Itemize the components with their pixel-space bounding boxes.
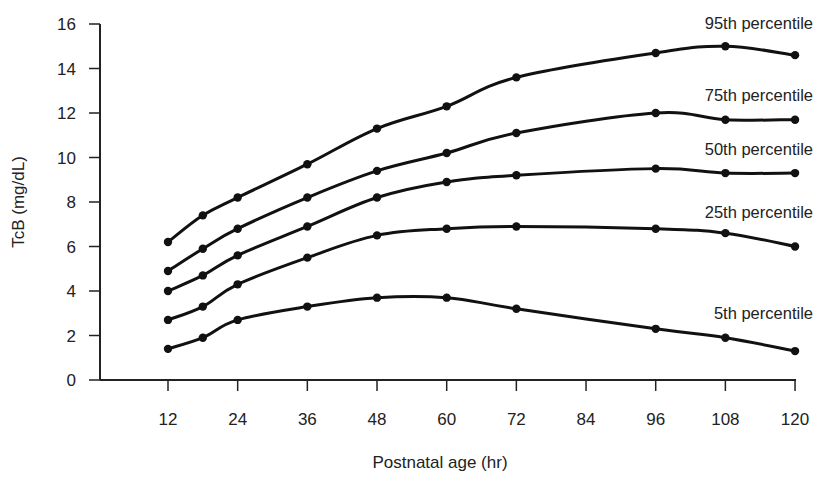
data-point bbox=[512, 305, 520, 313]
data-point bbox=[199, 302, 207, 310]
data-point bbox=[373, 231, 381, 239]
data-point bbox=[652, 164, 660, 172]
data-point bbox=[303, 253, 311, 261]
x-tick-label: 60 bbox=[437, 410, 456, 429]
x-tick-label: 96 bbox=[646, 410, 665, 429]
data-point bbox=[199, 211, 207, 219]
y-tick-label: 0 bbox=[67, 371, 76, 390]
y-tick-label: 10 bbox=[57, 149, 76, 168]
y-tick-label: 12 bbox=[57, 104, 76, 123]
data-point bbox=[721, 229, 729, 237]
data-point bbox=[233, 225, 241, 233]
axes bbox=[100, 24, 796, 380]
data-point bbox=[791, 242, 799, 250]
series-labels: 95th percentile75th percentile50th perce… bbox=[705, 14, 813, 322]
x-tick-label: 72 bbox=[507, 410, 526, 429]
x-tick-label: 108 bbox=[711, 410, 739, 429]
data-point bbox=[512, 129, 520, 137]
data-point bbox=[233, 280, 241, 288]
data-point bbox=[303, 222, 311, 230]
series-5th-percentile bbox=[164, 293, 799, 355]
y-axis-label: TcB (mg/dL) bbox=[9, 156, 28, 248]
data-point bbox=[442, 149, 450, 157]
data-point bbox=[233, 251, 241, 259]
series-label: 50th percentile bbox=[705, 140, 813, 158]
data-point bbox=[442, 293, 450, 301]
data-point bbox=[199, 245, 207, 253]
y-tick-label: 4 bbox=[67, 282, 76, 301]
y-tick-label: 2 bbox=[67, 327, 76, 346]
series-label: 5th percentile bbox=[714, 304, 813, 322]
x-tick-label: 36 bbox=[298, 410, 317, 429]
data-point bbox=[791, 169, 799, 177]
data-point bbox=[199, 334, 207, 342]
x-axis-ticks: 1224364860728496108120 bbox=[159, 380, 810, 429]
data-point bbox=[233, 316, 241, 324]
x-tick-label: 24 bbox=[228, 410, 247, 429]
data-point bbox=[652, 109, 660, 117]
data-point bbox=[199, 271, 207, 279]
series-75th-percentile bbox=[164, 109, 799, 275]
data-point bbox=[303, 160, 311, 168]
x-tick-label: 84 bbox=[577, 410, 596, 429]
data-point bbox=[652, 49, 660, 57]
x-tick-label: 12 bbox=[159, 410, 178, 429]
data-point bbox=[303, 193, 311, 201]
data-point bbox=[164, 267, 172, 275]
data-point bbox=[164, 238, 172, 246]
data-point bbox=[233, 193, 241, 201]
data-point bbox=[512, 222, 520, 230]
y-tick-label: 14 bbox=[57, 60, 76, 79]
data-point bbox=[373, 193, 381, 201]
x-tick-label: 120 bbox=[781, 410, 809, 429]
data-point bbox=[721, 169, 729, 177]
data-point bbox=[164, 316, 172, 324]
y-axis-ticks: 0246810121416 bbox=[57, 15, 100, 390]
data-point bbox=[442, 225, 450, 233]
data-point bbox=[721, 42, 729, 50]
data-point bbox=[652, 325, 660, 333]
data-point bbox=[373, 167, 381, 175]
data-point bbox=[164, 345, 172, 353]
data-point bbox=[373, 124, 381, 132]
y-tick-label: 8 bbox=[67, 193, 76, 212]
x-tick-label: 48 bbox=[368, 410, 387, 429]
data-point bbox=[164, 287, 172, 295]
y-tick-label: 16 bbox=[57, 15, 76, 34]
series-label: 25th percentile bbox=[705, 203, 813, 221]
data-point bbox=[512, 171, 520, 179]
data-point bbox=[373, 293, 381, 301]
data-point bbox=[442, 178, 450, 186]
x-axis-label: Postnatal age (hr) bbox=[372, 453, 507, 472]
series-label: 95th percentile bbox=[705, 14, 813, 32]
data-point bbox=[303, 302, 311, 310]
data-point bbox=[791, 347, 799, 355]
data-point bbox=[721, 115, 729, 123]
data-point bbox=[791, 115, 799, 123]
percentile-line-chart: 0246810121416 1224364860728496108120 95t… bbox=[0, 0, 819, 478]
series-25th-percentile bbox=[164, 222, 799, 324]
data-point bbox=[512, 73, 520, 81]
series-label: 75th percentile bbox=[705, 86, 813, 104]
data-point bbox=[721, 334, 729, 342]
data-point bbox=[442, 102, 450, 110]
y-tick-label: 6 bbox=[67, 238, 76, 257]
data-point bbox=[652, 225, 660, 233]
data-point bbox=[791, 51, 799, 59]
